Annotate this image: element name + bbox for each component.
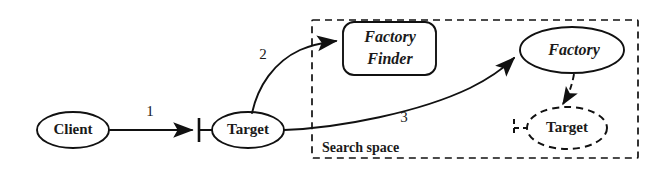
- node-target-instance[interactable]: Target: [527, 107, 607, 149]
- diagram-canvas: Search space 1 Client Target 2: [0, 0, 670, 174]
- target-proxy-label: Target: [227, 121, 269, 137]
- factory-label: Factory: [547, 41, 600, 59]
- edge-2-group: 2: [252, 41, 336, 113]
- target-instance-port-marker: [514, 119, 528, 137]
- edge-1-group: 1: [110, 103, 192, 130]
- edge-1-label: 1: [146, 103, 154, 119]
- target-instance-label: Target: [546, 119, 588, 135]
- edge-3-label: 3: [400, 109, 408, 125]
- edge-4-arrow: [563, 74, 574, 104]
- search-space-label: Search space: [322, 140, 399, 155]
- node-factory[interactable]: Factory: [520, 27, 624, 73]
- factory-finder-label-line1: Factory: [363, 28, 416, 46]
- node-target-proxy[interactable]: Target: [212, 112, 284, 148]
- node-factory-finder[interactable]: Factory Finder: [343, 22, 436, 75]
- edge-2-label: 2: [259, 46, 267, 62]
- diagram-svg: Search space 1 Client Target 2: [0, 0, 670, 174]
- factory-finder-label-line2: Finder: [366, 50, 413, 67]
- node-client[interactable]: Client: [37, 112, 109, 148]
- target-port-marker: [199, 118, 213, 142]
- client-label: Client: [53, 121, 92, 137]
- edge-4-group: [563, 74, 574, 104]
